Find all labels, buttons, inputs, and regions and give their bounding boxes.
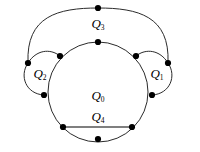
- vertex-upper-right-inner: [133, 53, 139, 59]
- region-label-q4: Q4: [91, 109, 104, 125]
- vertex-bottom: [95, 136, 101, 142]
- region-label-q0: Q0: [91, 88, 104, 104]
- left-lobe-upper-edge: [28, 51, 60, 63]
- region-label-q1: Q1: [150, 66, 163, 82]
- right-lobe-upper-edge: [136, 51, 168, 63]
- vertex-lower-left-inner: [41, 92, 47, 98]
- vertex-left-outer: [25, 60, 31, 66]
- region-label-q4-sub: 4: [101, 116, 105, 125]
- region-label-q1-sub: 1: [160, 73, 164, 82]
- vertex-top-outer: [95, 5, 101, 11]
- figure-container: Q3 Q2 Q1 Q0 Q4: [0, 0, 200, 152]
- region-label-q3-sub: 3: [101, 23, 105, 32]
- vertex-chord-left: [60, 124, 66, 130]
- vertex-chord-right: [129, 124, 135, 130]
- vertex-lower-right-inner: [149, 92, 155, 98]
- vertex-right-outer: [165, 60, 171, 66]
- graph-diagram-svg: Q3 Q2 Q1 Q0 Q4: [0, 0, 200, 152]
- vertex-top-inner: [95, 39, 101, 45]
- vertex-upper-left-inner: [57, 53, 63, 59]
- region-label-q2: Q2: [33, 66, 46, 82]
- region-label-q2-sub: 2: [43, 73, 47, 82]
- region-label-q0-sub: 0: [101, 95, 105, 104]
- region-label-q3: Q3: [91, 16, 104, 32]
